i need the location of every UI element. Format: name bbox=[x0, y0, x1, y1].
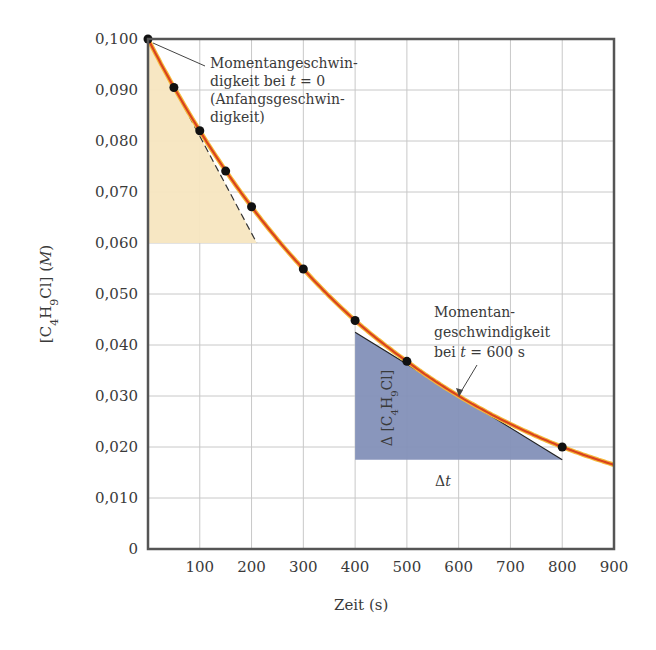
y-tick-label: 0,040 bbox=[95, 336, 138, 354]
data-point bbox=[247, 202, 256, 211]
x-tick-label: 300 bbox=[289, 558, 318, 576]
y-tick-label: 0,070 bbox=[95, 183, 138, 201]
data-point bbox=[402, 357, 411, 366]
x-tick-label: 400 bbox=[341, 558, 370, 576]
data-point bbox=[169, 83, 178, 92]
data-point bbox=[558, 443, 567, 452]
delta-t-label: Δt bbox=[435, 473, 451, 489]
y-tick-labels: 00,0100,0200,0300,0400,0500,0600,0700,08… bbox=[95, 30, 138, 558]
y-tick-label: 0,030 bbox=[95, 387, 138, 405]
x-tick-label: 200 bbox=[237, 558, 266, 576]
x-tick-label: 700 bbox=[496, 558, 525, 576]
y-tick-label: 0,080 bbox=[95, 132, 138, 150]
data-point bbox=[351, 316, 360, 325]
x-tick-labels: 100200300400500600700800900 bbox=[185, 558, 628, 576]
x-axis-label: Zeit (s) bbox=[334, 596, 388, 614]
x-tick-label: 500 bbox=[393, 558, 422, 576]
y-tick-label: 0,010 bbox=[95, 489, 138, 507]
data-point bbox=[299, 265, 308, 274]
y-tick-label: 0,090 bbox=[95, 81, 138, 99]
x-tick-label: 800 bbox=[548, 558, 577, 576]
x-tick-label: 100 bbox=[185, 558, 214, 576]
y-tick-label: 0,020 bbox=[95, 438, 138, 456]
data-point bbox=[195, 126, 204, 135]
chart-root: 00,0100,0200,0300,0400,0500,0600,0700,08… bbox=[0, 0, 656, 650]
annotation-instantaneous-rate-600: Momentan- geschwindigkeit bei t = 600 s bbox=[434, 304, 555, 360]
y-axis-label: [C4H9Cl] (M) bbox=[37, 245, 61, 343]
y-tick-label: 0,050 bbox=[95, 285, 138, 303]
y-tick-label: 0,100 bbox=[95, 30, 138, 48]
y-tick-label: 0 bbox=[128, 540, 138, 558]
y-tick-label: 0,060 bbox=[95, 234, 138, 252]
x-tick-label: 600 bbox=[444, 558, 473, 576]
data-point bbox=[221, 167, 230, 176]
x-tick-label: 900 bbox=[600, 558, 629, 576]
